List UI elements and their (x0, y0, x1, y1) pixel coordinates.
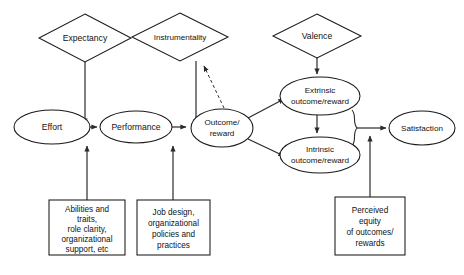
extrinsic-ellipse-shape (280, 77, 360, 115)
node-abilities-traits-box[interactable]: Abilities and traits, role clarity, orga… (49, 200, 125, 255)
node-perceived-equity-box[interactable]: Perceived equity of outcomes/ rewards (335, 197, 405, 255)
intrinsic-label-line2: outcome/reward (291, 156, 349, 165)
perceived-equity-box-line4: rewards (355, 239, 384, 248)
intrinsic-label-line1: Intrinsic (306, 145, 334, 154)
ellipse-layer: Effort Performance Outcome/ reward Extri… (14, 77, 455, 173)
node-intrinsic-outcome-reward[interactable]: Intrinsic outcome/reward (280, 137, 360, 173)
diamond-layer: Expectancy Instrumentality Valence (39, 13, 361, 62)
outcome-reward-ellipse-shape (191, 109, 253, 147)
expectancy-label: Expectancy (63, 33, 108, 43)
node-valence[interactable]: Valence (273, 14, 361, 58)
effort-label: Effort (42, 122, 63, 132)
perceived-equity-box-line1: Perceived (352, 206, 389, 215)
node-instrumentality[interactable]: Instrumentality (132, 13, 228, 61)
abilities-box-line1: Abilities and (65, 205, 110, 214)
job-design-box-line3: policies and (152, 230, 196, 239)
node-performance[interactable]: Performance (100, 111, 172, 143)
job-design-box-line2: organizational (148, 219, 199, 228)
job-design-box-line4: practices (157, 241, 190, 250)
diagram-canvas: Expectancy Instrumentality Valence Effor… (0, 0, 464, 275)
connector-outcome-to-instrumentality-dashed (204, 66, 224, 108)
extrinsic-label-line1: Extrinsic (305, 86, 336, 95)
valence-label: Valence (302, 31, 333, 41)
abilities-box-line2: traits, (77, 215, 97, 224)
node-satisfaction[interactable]: Satisfaction (389, 111, 455, 145)
box-layer: Abilities and traits, role clarity, orga… (49, 197, 405, 255)
job-design-box-line1: Job design, (153, 208, 195, 217)
node-extrinsic-outcome-reward[interactable]: Extrinsic outcome/reward (280, 77, 360, 115)
connector-outcome-to-extrinsic (248, 99, 284, 118)
abilities-box-line4: organizational (62, 235, 113, 244)
instrumentality-label: Instrumentality (154, 33, 208, 42)
perceived-equity-box-line2: equity (359, 217, 382, 226)
abilities-box-line3: role clarity, (68, 225, 107, 234)
satisfaction-label: Satisfaction (401, 124, 443, 133)
outcome-reward-label-line1: Outcome/ (204, 118, 240, 127)
intrinsic-ellipse-shape (280, 137, 360, 173)
perceived-equity-box-line3: of outcomes/ (347, 228, 395, 237)
connector-rewards-brace (352, 110, 357, 146)
node-effort[interactable]: Effort (14, 110, 90, 144)
abilities-box-line5: support, etc (66, 245, 109, 254)
node-expectancy[interactable]: Expectancy (39, 14, 131, 62)
node-outcome-reward[interactable]: Outcome/ reward (191, 109, 253, 147)
extrinsic-label-line2: outcome/reward (291, 97, 349, 106)
node-job-design-box[interactable]: Job design, organizational policies and … (137, 200, 210, 255)
outcome-reward-label-line2: reward (210, 129, 235, 138)
connector-outcome-to-intrinsic (248, 139, 284, 156)
motivation-diagram: Expectancy Instrumentality Valence Effor… (0, 0, 464, 275)
performance-label: Performance (111, 122, 160, 132)
